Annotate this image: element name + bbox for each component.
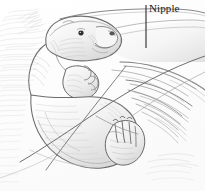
pup-nostril: [109, 32, 114, 36]
pup-eye-far: [78, 31, 83, 36]
illustration-figure: Nipple: [0, 0, 205, 191]
pencil-sketch-illustration: [0, 0, 205, 191]
